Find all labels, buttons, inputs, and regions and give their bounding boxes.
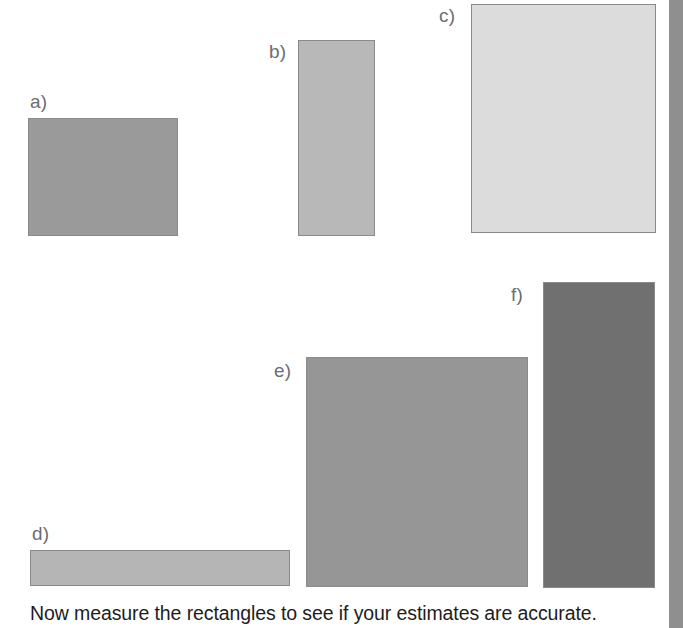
page-edge-bar — [669, 0, 683, 628]
rectangle-b — [298, 40, 375, 236]
rectangle-e-label: e) — [274, 361, 291, 380]
rectangle-f — [543, 282, 655, 588]
rectangle-e — [306, 357, 528, 587]
rectangle-f-label: f) — [511, 285, 523, 304]
rectangle-a — [28, 118, 178, 236]
rectangle-c-label: c) — [439, 6, 455, 25]
rectangle-b-label: b) — [269, 42, 286, 61]
figure-caption: Now measure the rectangles to see if you… — [30, 601, 650, 625]
rectangle-d — [30, 550, 290, 586]
rectangle-d-label: d) — [32, 524, 49, 543]
rectangle-c — [471, 4, 656, 233]
rectangle-estimation-figure: a) b) c) d) e) f) Now measure the rectan… — [0, 0, 683, 628]
rectangle-a-label: a) — [30, 92, 47, 111]
